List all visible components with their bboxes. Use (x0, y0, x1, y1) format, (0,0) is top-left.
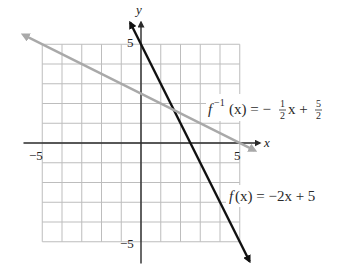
x-tick-neg5: −5 (29, 148, 43, 163)
y-axis-label: y (134, 2, 142, 17)
finv-frac1-den: 2 (280, 110, 285, 121)
finv-frac2-den: 2 (316, 110, 321, 121)
y-tick-5: 5 (127, 35, 134, 50)
finv-frac2-num: 5 (316, 98, 321, 109)
finv-mid: x + (288, 101, 308, 117)
f-label: f (x) = −2x + 5 (229, 188, 315, 205)
y-tick-neg5: −5 (120, 236, 134, 251)
finv-frac1-num: 1 (280, 98, 285, 109)
graph: x y −5 5 5 −5 f −1 (x) = − 1 2 x + 5 2 f… (0, 0, 344, 276)
series-f-line (130, 23, 249, 262)
x-axis-label: x (263, 135, 270, 150)
f-rest: (x) = −2x + 5 (235, 188, 315, 205)
x-tick-5: 5 (234, 148, 241, 163)
finv-arg: (x) = − (229, 101, 271, 118)
finv-sup: −1 (214, 97, 225, 108)
